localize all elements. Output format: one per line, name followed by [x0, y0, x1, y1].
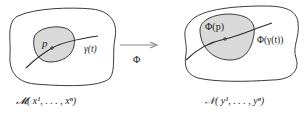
manifold-map-diagram: p γ(t) 𝓜( x¹, . . . , xⁿ) Φ Φ(p) Φ(γ(t))…	[0, 0, 305, 114]
point-phi-p-label: Φ(p)	[205, 21, 224, 33]
point-p-label: p	[41, 37, 48, 49]
manifold-n-caption: 𝒩( y¹, . . . , yⁿ)	[205, 95, 265, 107]
curve-phi-gamma-label: Φ(γ(t))	[257, 35, 283, 46]
curve-gamma-label: γ(t)	[84, 44, 97, 55]
manifold-m-caption: 𝓜( x¹, . . . , xⁿ)	[16, 95, 77, 107]
map-phi-label: Φ	[133, 54, 140, 65]
